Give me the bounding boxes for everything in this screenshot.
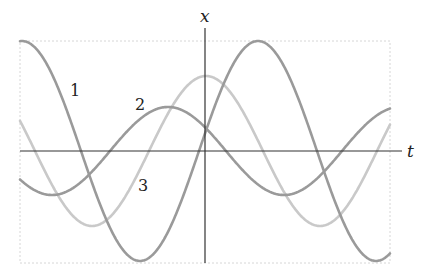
curve-2-label: 2 (135, 95, 145, 114)
oscillation-diagram: x t 1 2 3 (0, 0, 421, 271)
x-axis-label: x (200, 6, 210, 26)
curve-3-label: 3 (138, 176, 148, 195)
t-axis-label: t (407, 141, 414, 161)
curve-1-label: 1 (70, 81, 80, 100)
